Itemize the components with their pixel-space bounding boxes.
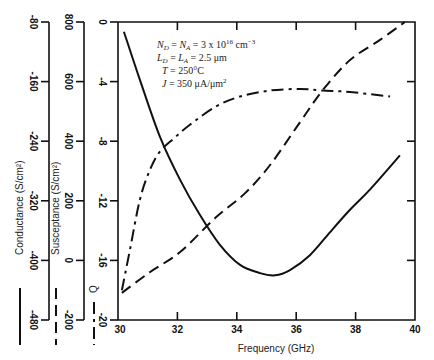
tick-label: -320: [28, 191, 39, 211]
x-axis-title: Frequency (GHz): [238, 343, 315, 354]
x-tick-label: 34: [231, 324, 243, 335]
tick-label: -240: [28, 131, 39, 151]
tick-label: -80: [28, 15, 39, 30]
axis-title: Susceptance (S/cm²): [50, 162, 61, 255]
tick-label: -400: [28, 250, 39, 270]
tick-label: -16: [97, 253, 108, 268]
x-axis: 303234363840Frequency (GHz): [114, 312, 421, 354]
x-tick-label: 40: [409, 324, 421, 335]
x-tick-label: 38: [350, 324, 362, 335]
x-tick-label: 32: [172, 324, 184, 335]
x-tick-label: 30: [114, 324, 126, 335]
tick-label: -12: [97, 194, 108, 209]
y-axis-conductance: -80-160-240-320-400-480: [28, 15, 49, 331]
annotation-doping: ND = NA = 3 x 1016 cm−3: [156, 38, 256, 52]
chart: -80-160-240-320-400-4808006004002000-200…: [0, 0, 434, 360]
annotation-current-density: J = 350 μA/μm2: [162, 77, 227, 89]
tick-label: -20: [97, 313, 108, 328]
tick-label: -8: [97, 137, 108, 146]
y-axis-susceptance: 8006004002000-200: [63, 14, 84, 331]
tick-label: 0: [63, 258, 74, 264]
legend-susceptance: Susceptance (S/cm²): [50, 162, 61, 345]
annotations: ND = NA = 3 x 1016 cm−3 LD = LA = 2.5 μm…: [156, 38, 256, 89]
legend-q: Q: [88, 285, 99, 345]
axis-title: Q: [88, 285, 99, 293]
tick-label: 800: [63, 14, 74, 31]
tick-label: -480: [28, 310, 39, 330]
axis-title: Conductance (S/cm²): [14, 161, 25, 255]
annotation-diffusion-length: LD = LA = 2.5 μm: [156, 52, 227, 65]
annotation-temperature: T = 250°C: [162, 65, 204, 76]
tick-label: 600: [63, 73, 74, 90]
tick-label: 0: [97, 19, 108, 25]
tick-label: 400: [63, 133, 74, 150]
curve-q: [122, 89, 390, 290]
tick-label: -200: [63, 310, 74, 330]
tick-label: -160: [28, 72, 39, 92]
tick-label: 200: [63, 192, 74, 209]
left-axes: -80-160-240-320-400-4808006004002000-200…: [14, 14, 118, 345]
tick-label: -4: [97, 77, 108, 86]
y-axis-q: 0-4-8-12-16-20: [97, 19, 118, 327]
legend-conductance: Conductance (S/cm²): [14, 161, 25, 345]
x-tick-label: 36: [291, 324, 303, 335]
